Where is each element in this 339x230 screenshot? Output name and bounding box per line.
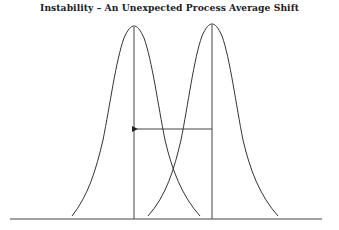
shifted-distribution-curve bbox=[148, 24, 278, 216]
distribution-diagram bbox=[0, 0, 339, 230]
original-distribution-curve bbox=[72, 26, 200, 216]
